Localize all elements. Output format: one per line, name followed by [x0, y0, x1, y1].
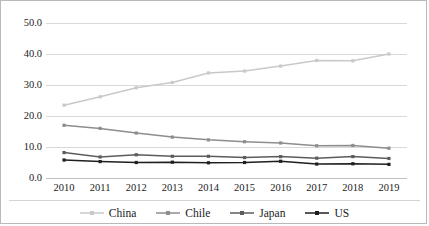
plot-area	[46, 23, 407, 178]
data-point-marker	[279, 64, 282, 67]
legend-item-us[interactable]: US	[305, 207, 349, 219]
x-axis-labels: 2010201120122013201420152016201720182019	[46, 182, 407, 198]
data-point-marker	[279, 155, 282, 158]
legend-divider	[9, 200, 420, 201]
data-point-marker	[99, 127, 102, 130]
data-point-marker	[387, 52, 390, 55]
series-line-china	[64, 54, 389, 105]
data-point-marker	[207, 138, 210, 141]
data-point-marker	[171, 135, 174, 138]
data-point-marker	[99, 95, 102, 98]
data-point-marker	[171, 81, 174, 84]
data-point-marker	[135, 86, 138, 89]
legend-label: US	[334, 207, 349, 219]
x-tick-label: 2018	[342, 182, 363, 194]
legend-marker-icon	[156, 208, 180, 218]
data-point-marker	[315, 162, 318, 165]
y-tick-label: 50.0	[2, 18, 42, 29]
legend-label: Japan	[259, 207, 285, 219]
data-point-marker	[279, 160, 282, 163]
legend-marker-icon	[305, 208, 329, 218]
data-point-marker	[171, 155, 174, 158]
x-tick-label: 2012	[126, 182, 147, 194]
legend-marker-icon	[230, 208, 254, 218]
x-tick-label: 2016	[270, 182, 291, 194]
x-tick-label: 2015	[234, 182, 255, 194]
data-point-marker	[243, 161, 246, 164]
y-axis-labels: 0.010.020.030.040.050.0	[1, 1, 42, 201]
data-point-marker	[207, 71, 210, 74]
data-point-marker	[387, 147, 390, 150]
y-tick-label: 0.0	[2, 173, 42, 184]
data-point-marker	[135, 131, 138, 134]
data-point-marker	[62, 124, 65, 127]
data-point-marker	[171, 161, 174, 164]
data-point-marker	[135, 161, 138, 164]
data-point-marker	[207, 161, 210, 164]
data-point-marker	[243, 156, 246, 159]
legend-label: China	[109, 207, 136, 219]
legend-item-china[interactable]: China	[80, 207, 136, 219]
data-point-marker	[99, 160, 102, 163]
data-point-marker	[62, 158, 65, 161]
chart-legend: ChinaChileJapanUS	[1, 203, 428, 223]
x-tick-label: 2019	[378, 182, 399, 194]
x-tick-label: 2013	[162, 182, 183, 194]
gridline-0	[46, 178, 407, 179]
data-point-marker	[207, 155, 210, 158]
data-point-marker	[387, 157, 390, 160]
series-line-chile	[64, 125, 389, 148]
data-point-marker	[315, 59, 318, 62]
line-chart: 0.010.020.030.040.050.0 2010201120122013…	[0, 0, 427, 224]
y-tick-label: 10.0	[2, 142, 42, 153]
series-line-japan	[64, 153, 389, 159]
legend-item-chile[interactable]: Chile	[156, 207, 210, 219]
data-point-marker	[351, 162, 354, 165]
series-lines	[46, 23, 407, 178]
data-point-marker	[243, 140, 246, 143]
series-line-us	[64, 160, 389, 164]
data-point-marker	[135, 153, 138, 156]
data-point-marker	[351, 59, 354, 62]
data-point-marker	[243, 69, 246, 72]
legend-label: Chile	[185, 207, 210, 219]
x-tick-label: 2011	[90, 182, 111, 194]
data-point-marker	[279, 141, 282, 144]
data-point-marker	[62, 151, 65, 154]
data-point-marker	[62, 104, 65, 107]
data-point-marker	[99, 155, 102, 158]
data-point-marker	[387, 163, 390, 166]
legend-item-japan[interactable]: Japan	[230, 207, 285, 219]
x-tick-label: 2010	[54, 182, 75, 194]
x-tick-label: 2017	[306, 182, 327, 194]
data-point-marker	[315, 144, 318, 147]
x-tick-label: 2014	[198, 182, 219, 194]
data-point-marker	[315, 157, 318, 160]
data-point-marker	[351, 155, 354, 158]
y-tick-label: 20.0	[2, 111, 42, 122]
y-tick-label: 30.0	[2, 80, 42, 91]
data-point-marker	[351, 144, 354, 147]
legend-marker-icon	[80, 208, 104, 218]
y-tick-label: 40.0	[2, 49, 42, 60]
